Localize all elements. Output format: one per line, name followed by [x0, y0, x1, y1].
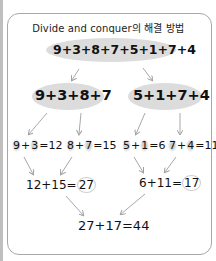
- operand-highlight: 5: [122, 139, 131, 152]
- level3-step-3: 5+1=6: [122, 139, 165, 152]
- level1-expression: 9+3+8+7+5+1+7+4: [53, 42, 196, 57]
- operand-highlight: 7: [168, 139, 177, 152]
- level3-step-1: 9+3=12: [12, 139, 62, 152]
- level4-left-result-circle: 27: [77, 177, 96, 193]
- level3-step-2: 8+7=15: [66, 139, 116, 152]
- level5-final-expression: 27+17=44: [78, 218, 149, 233]
- level4-left: 12+15=27: [26, 177, 96, 193]
- operand-highlight: 3: [30, 139, 39, 152]
- step-result: =11: [195, 139, 216, 152]
- operator: +: [21, 139, 30, 152]
- operator: +: [75, 139, 84, 152]
- level4-right: 6+11=17: [139, 175, 201, 191]
- operator: +: [177, 139, 186, 152]
- step-result: =12: [39, 139, 62, 152]
- operand-highlight: 1: [140, 139, 149, 152]
- operator: +: [131, 139, 140, 152]
- level2-right-expression: 5+1+7+4: [133, 87, 210, 103]
- level4-right-expression: 6+11=: [139, 176, 182, 190]
- level3-step-4: 7+4=11: [168, 139, 216, 152]
- left-edge-divider: [0, 0, 3, 261]
- level4-right-result-circle: 17: [182, 175, 201, 191]
- operand-highlight: 8: [66, 139, 75, 152]
- operand-highlight: 9: [12, 139, 21, 152]
- level4-left-expression: 12+15=: [26, 178, 77, 192]
- operand-highlight: 7: [84, 139, 93, 152]
- diagram-title: Divide and conquer의 해결 방법: [0, 20, 216, 35]
- level2-left-expression: 9+3+8+7: [35, 87, 112, 103]
- operand-highlight: 4: [186, 139, 195, 152]
- step-result: =15: [93, 139, 116, 152]
- step-result: =6: [149, 139, 165, 152]
